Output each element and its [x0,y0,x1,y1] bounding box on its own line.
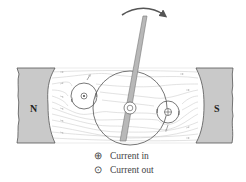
legend-label: Current out [110,165,154,175]
conductor-current-in [157,101,179,131]
pointer-needle [120,16,147,141]
legend-current-out: ⊙ Current out [92,164,212,175]
south-magnet: S [196,68,233,143]
legend-label: Current in [110,151,149,161]
north-pole-label: N [30,103,38,114]
north-magnet: N [17,68,55,143]
force-arrow-icon [166,125,168,131]
cross-symbol-icon: ⊕ [92,150,104,161]
force-arrow-icon [87,75,90,80]
dot-symbol-icon: ⊙ [92,164,104,175]
south-pole-label: S [214,103,220,114]
legend-current-in: ⊕ Current in [92,150,212,161]
rotation-arrow-icon [122,8,164,15]
